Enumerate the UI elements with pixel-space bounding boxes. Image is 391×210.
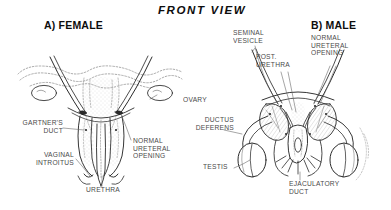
- label-normal-ureteral-opening-female: NORMAL URETERAL OPENING: [133, 137, 171, 160]
- anatomy-figure: FRONT VIEW A) FEMALE B) MALE OVARY GARTN…: [0, 0, 391, 210]
- label-ductus-deferens: DUCTUS DEFERENS: [182, 116, 234, 131]
- label-vaginal-introitus: VAGINAL INTROITUS: [9, 151, 74, 166]
- label-gartners-duct: GARTNER'S DUCT: [6, 119, 63, 134]
- label-urethra: URETHRA: [79, 186, 127, 194]
- label-seminal-vesicle: SEMINAL VESICLE: [233, 29, 264, 44]
- figure-title: FRONT VIEW: [158, 4, 246, 16]
- panel-heading-male: B) MALE: [311, 19, 356, 31]
- label-ejaculatory-duct: EJACULATORY DUCT: [289, 180, 339, 195]
- label-testis: TESTIS: [203, 163, 228, 171]
- label-ovary: OVARY: [183, 96, 207, 104]
- label-post-urethra: POST. URETHRA: [256, 53, 290, 68]
- panel-heading-female: A) FEMALE: [44, 19, 103, 31]
- label-normal-ureteral-opening-male: NORMAL URETERAL OPENING: [311, 34, 349, 57]
- male-anatomy: [224, 46, 369, 180]
